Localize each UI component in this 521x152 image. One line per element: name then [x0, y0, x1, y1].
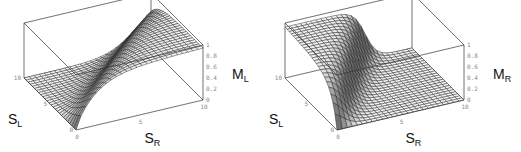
y-tick-label: 5 [304, 100, 308, 107]
z-tick-label: 0.8 [467, 52, 478, 59]
y-axis-label: SL [269, 111, 283, 129]
y-tick-label: 10 [275, 74, 283, 81]
surface [24, 9, 203, 130]
plot-1: 0510051000.20.40.60.81SRSLML [8, 0, 249, 148]
plot-2: 0510051000.20.40.60.81SRSLMR [269, 0, 512, 148]
box-edge [76, 100, 203, 130]
z-axis-label: MR [493, 66, 512, 84]
x-tick-label: 5 [139, 118, 143, 125]
z-tick-label: 0.2 [467, 85, 478, 92]
z-axis-label: ML [232, 66, 249, 84]
z-tick-label: 0.2 [206, 85, 217, 92]
surface-plots: 0510051000.20.40.60.81SRSLML0510051000.2… [0, 0, 521, 152]
z-tick-label: 0.4 [467, 74, 478, 81]
y-tick-label: 5 [43, 100, 47, 107]
x-tick-label: 0 [336, 133, 340, 140]
y-tick-label: 0 [69, 126, 73, 133]
z-tick-label: 0 [206, 96, 210, 103]
z-tick-label: 0.8 [206, 52, 217, 59]
y-tick-label: 10 [14, 74, 22, 81]
x-tick-label: 10 [461, 103, 469, 110]
z-tick-label: 0 [467, 96, 471, 103]
box-edge [24, 0, 151, 23]
z-tick-label: 1 [467, 41, 471, 48]
surface [285, 14, 464, 130]
z-tick-label: 1 [206, 41, 210, 48]
box-edge [412, 0, 464, 45]
x-tick-label: 5 [400, 118, 404, 125]
x-axis-label: SR [406, 130, 422, 148]
y-axis-label: SL [8, 111, 22, 129]
x-tick-label: 10 [200, 103, 208, 110]
z-tick-label: 0.6 [206, 63, 217, 70]
box-edge [24, 23, 76, 75]
z-tick-label: 0.6 [467, 63, 478, 70]
x-axis-label: SR [145, 130, 161, 148]
z-tick-label: 0.4 [206, 74, 217, 81]
y-tick-label: 0 [330, 126, 334, 133]
x-tick-label: 0 [75, 133, 79, 140]
